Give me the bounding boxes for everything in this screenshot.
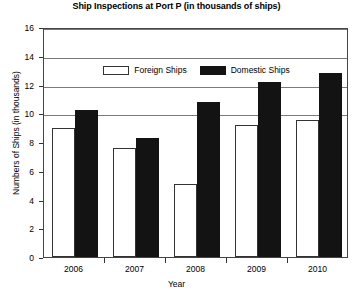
x-axis-tick-label: 2008 xyxy=(166,264,226,274)
x-axis-tick-mark xyxy=(226,258,227,263)
x-axis-tick-label: 2009 xyxy=(227,264,287,274)
plot-area: Foreign Ships Domestic Ships xyxy=(43,28,348,258)
bar-chart: Ship Inspections at Port P (in thousands… xyxy=(0,0,353,294)
bar-2007-domestic xyxy=(136,138,159,257)
bar-2008-foreign xyxy=(174,184,197,257)
legend-item-foreign: Foreign Ships xyxy=(103,65,186,75)
bar-2006-foreign xyxy=(52,128,75,257)
y-axis-tick-label: 6 xyxy=(0,168,34,177)
legend-label-foreign: Foreign Ships xyxy=(134,65,186,75)
chart-legend: Foreign Ships Domestic Ships xyxy=(44,65,349,75)
x-axis-tick-label: 2010 xyxy=(288,264,348,274)
y-axis-tick-mark xyxy=(39,201,43,202)
x-axis-tick-label: 2006 xyxy=(44,264,104,274)
y-axis-tick-label: 8 xyxy=(0,139,34,148)
y-axis-tick-label: 14 xyxy=(0,53,34,62)
bar-2009-foreign xyxy=(235,125,258,257)
bar-2009-domestic xyxy=(258,82,281,257)
y-axis-tick-label: 16 xyxy=(0,24,34,33)
chart-title: Ship Inspections at Port P (in thousands… xyxy=(0,1,353,11)
x-axis-tick-mark xyxy=(104,258,105,263)
y-axis-tick-mark xyxy=(39,172,43,173)
legend-swatch-foreign-icon xyxy=(103,66,129,75)
gridline xyxy=(44,58,347,59)
bar-2007-foreign xyxy=(113,148,136,257)
gridline xyxy=(44,29,347,30)
legend-item-domestic: Domestic Ships xyxy=(200,65,290,75)
x-axis-tick-mark xyxy=(287,258,288,263)
y-axis-tick-mark xyxy=(39,258,43,259)
y-axis-tick-label: 4 xyxy=(0,197,34,206)
y-axis-tick-mark xyxy=(39,86,43,87)
y-axis-tick-mark xyxy=(39,57,43,58)
y-axis-tick-mark xyxy=(39,229,43,230)
legend-swatch-domestic-icon xyxy=(200,66,226,75)
y-axis-tick-mark xyxy=(39,114,43,115)
bar-2006-domestic xyxy=(75,110,98,257)
y-axis-tick-mark xyxy=(39,28,43,29)
x-axis-tick-label: 2007 xyxy=(105,264,165,274)
y-axis-tick-label: 12 xyxy=(0,82,34,91)
y-axis-tick-label: 0 xyxy=(0,254,34,263)
y-axis-tick-label: 2 xyxy=(0,225,34,234)
bar-2010-domestic xyxy=(319,73,342,257)
gridline xyxy=(44,87,347,88)
bar-2008-domestic xyxy=(197,102,220,257)
y-axis-tick-mark xyxy=(39,143,43,144)
x-axis-tick-mark xyxy=(165,258,166,263)
y-axis-tick-label: 10 xyxy=(0,110,34,119)
x-axis-title: Year xyxy=(0,279,353,289)
legend-label-domestic: Domestic Ships xyxy=(231,65,290,75)
bar-2010-foreign xyxy=(296,120,319,257)
